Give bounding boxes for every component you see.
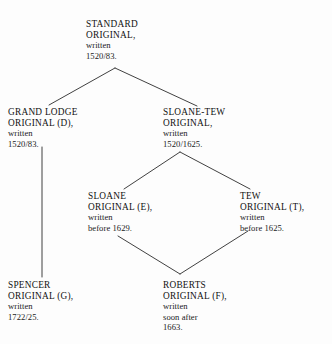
node-sloane-tew-original-detail-line2: 1520/1625. <box>163 139 225 150</box>
node-sloane-tew-original-detail-line1: written <box>163 128 225 139</box>
node-sloane-tew-original: SLOANE-TEW ORIGINAL, written 1520/1625. <box>163 107 225 149</box>
node-spencer-original-title-line2: ORIGINAL (G), <box>8 291 73 302</box>
edge-standard-to-sloane-tew <box>115 68 197 106</box>
node-spencer-original-title-line1: SPENCER <box>8 280 73 291</box>
node-roberts-original: ROBERTS ORIGINAL (F), written soon after… <box>163 280 227 333</box>
node-spencer-original-detail-line2: 1722/25. <box>8 312 73 323</box>
node-standard-original-detail-line2: 1520/83. <box>86 51 138 62</box>
node-standard-original-detail-line1: written <box>86 40 138 51</box>
node-spencer-original-detail-line1: written <box>8 301 73 312</box>
edge-sloane-tew-to-sloane <box>124 152 180 189</box>
node-sloane-original-detail-line2: before 1629. <box>88 223 152 234</box>
edge-tew-to-roberts <box>180 231 248 274</box>
edge-sloane-to-roberts <box>118 236 180 274</box>
node-tew-original: TEW ORIGINAL (T), written before 1625. <box>240 191 304 233</box>
node-grand-lodge-original-detail-line1: written <box>8 128 78 139</box>
node-tew-original-title-line1: TEW <box>240 191 304 202</box>
node-grand-lodge-original-title-line2: ORIGINAL (D), <box>8 118 78 129</box>
node-tew-original-title-line2: ORIGINAL (T), <box>240 202 304 213</box>
node-tew-original-detail-line1: written <box>240 212 304 223</box>
node-sloane-tew-original-title-line2: ORIGINAL, <box>163 118 225 129</box>
edge-sloane-tew-to-tew <box>180 152 250 189</box>
node-grand-lodge-original-title-line1: GRAND LODGE <box>8 107 78 118</box>
edge-standard-to-grand-lodge <box>49 68 115 105</box>
node-sloane-original-title-line1: SLOANE <box>88 191 152 202</box>
node-roberts-original-detail-line3: 1663. <box>163 322 227 333</box>
node-spencer-original: SPENCER ORIGINAL (G), written 1722/25. <box>8 280 73 322</box>
node-roberts-original-title-line1: ROBERTS <box>163 280 227 291</box>
node-sloane-original-detail-line1: written <box>88 212 152 223</box>
node-grand-lodge-original: GRAND LODGE ORIGINAL (D), written 1520/8… <box>8 107 78 149</box>
node-standard-original-title-line2: ORIGINAL, <box>86 30 138 41</box>
node-roberts-original-detail-line2: soon after <box>163 312 227 323</box>
node-roberts-original-detail-line1: written <box>163 301 227 312</box>
node-sloane-original-title-line2: ORIGINAL (E), <box>88 202 152 213</box>
node-sloane-tew-original-title-line1: SLOANE-TEW <box>163 107 225 118</box>
node-roberts-original-title-line2: ORIGINAL (F), <box>163 291 227 302</box>
node-standard-original: STANDARD ORIGINAL, written 1520/83. <box>86 19 138 61</box>
stemma-diagram: STANDARD ORIGINAL, written 1520/83. GRAN… <box>0 0 332 344</box>
node-tew-original-detail-line2: before 1625. <box>240 223 304 234</box>
node-standard-original-title-line1: STANDARD <box>86 19 138 30</box>
node-sloane-original: SLOANE ORIGINAL (E), written before 1629… <box>88 191 152 233</box>
node-grand-lodge-original-detail-line2: 1520/83. <box>8 139 78 150</box>
